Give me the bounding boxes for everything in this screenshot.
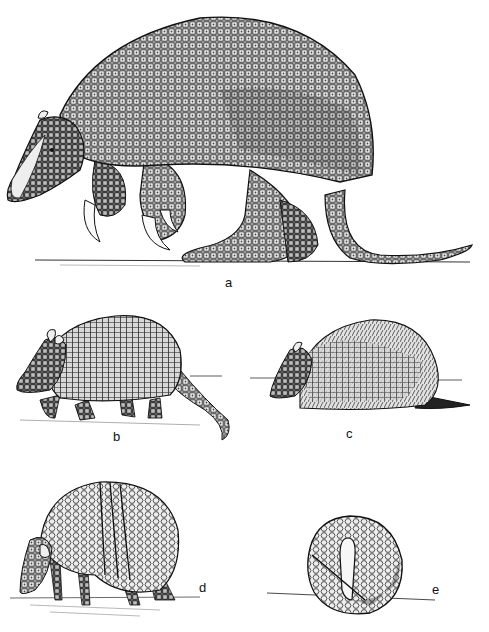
illustration-plate: a b c d e [0,0,489,632]
figure-c-hairy-armadillo [250,320,470,410]
label-e: e [432,582,439,597]
label-a: a [225,275,233,290]
label-d: d [199,580,206,595]
label-b: b [113,429,120,444]
figure-d-three-banded-armadillo [10,482,200,616]
label-c: c [346,426,353,441]
figure-e-rolled-armadillo [267,516,435,614]
figure-b-nine-banded-armadillo [17,316,229,440]
figure-a-giant-armadillo [7,17,472,266]
